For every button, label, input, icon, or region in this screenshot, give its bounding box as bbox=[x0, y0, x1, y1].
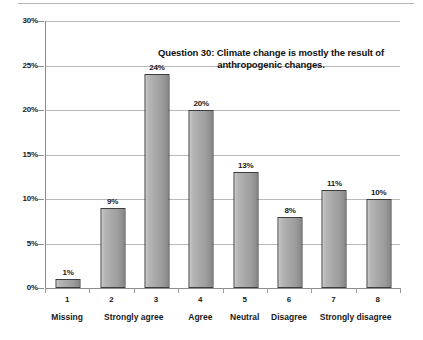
x-tick-mark bbox=[89, 288, 90, 293]
chart-title-line: anthropogenic changes. bbox=[106, 59, 423, 71]
x-tick-mark bbox=[400, 288, 401, 293]
y-tick-mark bbox=[38, 21, 44, 22]
y-tick-label: 30% bbox=[0, 16, 38, 25]
bar-value-label: 9% bbox=[107, 197, 118, 206]
x-tick-mark bbox=[356, 288, 357, 293]
y-tick-mark bbox=[38, 110, 44, 111]
x-tick-mark bbox=[311, 288, 312, 293]
bar-chart-figure: 0%5%10%15%20%25%30% 1%9%24%20%13%8%11%10… bbox=[0, 0, 423, 340]
bar-value-label: 10% bbox=[371, 188, 386, 197]
x-tick-mark bbox=[267, 288, 268, 293]
x-category-label: Agree bbox=[188, 312, 212, 322]
bar-value-label: 20% bbox=[194, 99, 209, 108]
x-tick-number-3: 3 bbox=[154, 295, 158, 304]
bar-slot: 1% bbox=[46, 21, 90, 288]
bar[interactable] bbox=[189, 110, 214, 288]
y-tick-mark bbox=[38, 244, 44, 245]
x-tick-number-5: 5 bbox=[242, 295, 246, 304]
y-tick-mark bbox=[38, 288, 44, 289]
x-tick-number-2: 2 bbox=[109, 295, 113, 304]
y-tick-label: 10% bbox=[0, 194, 38, 203]
y-tick-label: 25% bbox=[0, 61, 38, 70]
chart-title: Question 30: Climate change is mostly th… bbox=[106, 47, 423, 71]
x-category-label: Neutral bbox=[230, 312, 259, 322]
bar[interactable] bbox=[278, 217, 303, 288]
y-tick-mark bbox=[38, 199, 44, 200]
bar-value-label: 8% bbox=[284, 206, 295, 215]
bar-value-label: 13% bbox=[238, 161, 253, 170]
x-tick-mark bbox=[178, 288, 179, 293]
x-tick-number-7: 7 bbox=[331, 295, 335, 304]
y-tick-label: 5% bbox=[0, 239, 38, 248]
x-category-label: Strongly disagree bbox=[320, 312, 392, 322]
x-axis-category-labels: MissingStrongly agreeAgreeNeutralDisagre… bbox=[45, 312, 400, 328]
y-tick-label: 0% bbox=[0, 283, 38, 292]
x-tick-number-6: 6 bbox=[287, 295, 291, 304]
plot-area: 1%9%24%20%13%8%11%10% Question 30: Clima… bbox=[45, 21, 400, 288]
x-category-label: Disagree bbox=[271, 312, 307, 322]
x-axis-number-labels: 12345678 bbox=[45, 295, 400, 309]
y-tick-label: 15% bbox=[0, 150, 38, 159]
bar-value-label: 11% bbox=[327, 179, 342, 188]
bar[interactable] bbox=[56, 279, 81, 288]
bar[interactable] bbox=[144, 74, 169, 288]
bar[interactable] bbox=[100, 208, 125, 288]
bar-value-label: 1% bbox=[63, 268, 74, 277]
x-category-label: Strongly agree bbox=[104, 312, 164, 322]
x-tick-mark bbox=[45, 288, 46, 293]
y-axis: 0%5%10%15%20%25%30% bbox=[0, 21, 41, 288]
x-category-label: Missing bbox=[51, 312, 83, 322]
bar[interactable] bbox=[322, 190, 347, 288]
x-tick-number-1: 1 bbox=[65, 295, 69, 304]
x-tick-mark bbox=[134, 288, 135, 293]
x-tick-mark bbox=[223, 288, 224, 293]
chart-title-line: Question 30: Climate change is mostly th… bbox=[106, 47, 423, 59]
y-tick-mark bbox=[38, 155, 44, 156]
y-tick-label: 20% bbox=[0, 105, 38, 114]
x-tick-number-4: 4 bbox=[198, 295, 202, 304]
bar[interactable] bbox=[233, 172, 258, 288]
y-tick-mark bbox=[38, 66, 44, 67]
x-tick-number-8: 8 bbox=[376, 295, 380, 304]
bar[interactable] bbox=[366, 199, 391, 288]
